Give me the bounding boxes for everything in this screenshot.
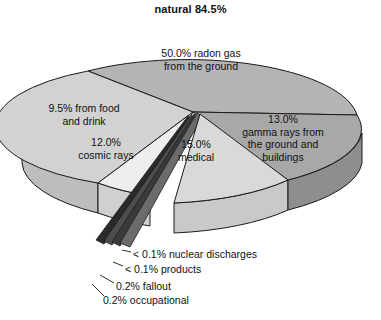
- chart-title: natural 84.5%: [0, 3, 381, 15]
- callout-label-fallout: 0.2% fallout: [116, 280, 171, 292]
- callout-label-occupational: 0.2% occupational: [103, 294, 189, 306]
- leader-line-fallout: [100, 275, 114, 283]
- callout-label-nuclear-discharges: < 0.1% nuclear discharges: [133, 248, 257, 260]
- callout-label-products: < 0.1% products: [125, 263, 201, 275]
- leader-line-nuclear-discharges: [122, 250, 131, 252]
- pie-chart-figure: natural 84.5% 50.0% radon gas from the g…: [0, 0, 381, 320]
- leader-line-products: [113, 262, 123, 266]
